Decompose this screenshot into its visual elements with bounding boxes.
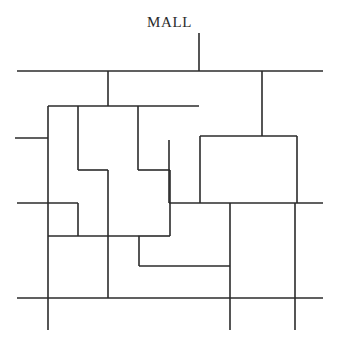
site-plan-diagram: MALL — [0, 0, 339, 350]
plan-line-network — [0, 0, 339, 350]
plan-line-group — [15, 33, 323, 330]
